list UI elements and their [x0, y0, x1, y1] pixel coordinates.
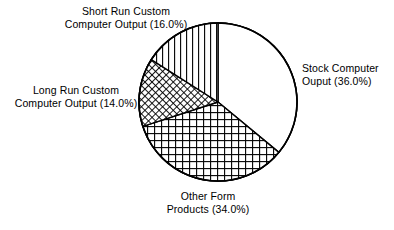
pie-chart-figure: Short Run Custom Computer Output (16.0%)… — [0, 0, 394, 230]
pie-label-short-run-custom-line1: Short Run Custom — [56, 5, 196, 18]
pie-label-long-run-custom-line2: Computer Output (14.0%) — [10, 97, 142, 110]
pie-label-other-form-products-line2: Products (34.0%) — [148, 203, 268, 216]
pie-label-other-form-products-line1: Other Form — [148, 190, 268, 203]
pie-label-stock-computer-output-line1: Stock Computer — [302, 62, 394, 75]
pie-label-other-form-products: Other Form Products (34.0%) — [148, 190, 268, 216]
pie-label-stock-computer-output: Stock Computer Ouput (36.0%) — [302, 62, 394, 88]
pie-label-short-run-custom-line2: Computer Output (16.0%) — [56, 18, 196, 31]
pie-label-stock-computer-output-line2: Ouput (36.0%) — [302, 75, 394, 88]
pie-label-short-run-custom: Short Run Custom Computer Output (16.0%) — [56, 5, 196, 31]
pie-label-long-run-custom: Long Run Custom Computer Output (14.0%) — [10, 84, 142, 110]
pie-label-long-run-custom-line1: Long Run Custom — [10, 84, 142, 97]
